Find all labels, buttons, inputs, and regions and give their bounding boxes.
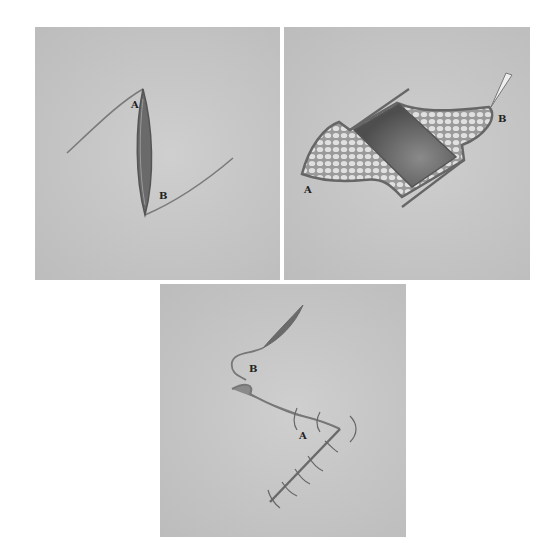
flap-drawing [284, 27, 530, 280]
panel-sutured-closure: B A [160, 284, 406, 537]
label-b: B [498, 113, 506, 124]
label-a: A [304, 184, 312, 195]
label-a: A [131, 99, 139, 110]
label-a: A [299, 430, 307, 441]
panel-flap-elevated: A B [284, 27, 530, 280]
incision-drawing [35, 27, 280, 280]
label-b: B [249, 363, 257, 374]
panel-incision: A B [35, 27, 280, 280]
label-b: B [159, 190, 167, 201]
closure-drawing [160, 284, 406, 537]
